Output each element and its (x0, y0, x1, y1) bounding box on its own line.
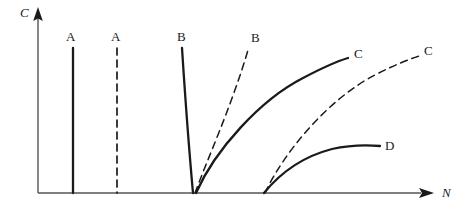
curve-label-c-solid: C (354, 47, 363, 60)
curve-b-dashed (195, 50, 248, 193)
curve-label-c-dashed: C (424, 44, 433, 57)
curves-group (73, 48, 419, 193)
axes-group (33, 7, 434, 198)
y-axis-label: C (20, 6, 29, 19)
curve-label-a-dashed: A (111, 30, 120, 43)
curve-label-b-dashed: B (251, 31, 260, 44)
curve-label-a-solid: A (66, 30, 75, 43)
curve-label-d-solid: D (385, 139, 394, 152)
curve-c-solid (196, 58, 348, 193)
curve-d-solid (264, 145, 380, 193)
right-arrow-icon (419, 188, 434, 198)
curve-c-dashed (265, 56, 419, 193)
figure-root: C N A A B B C C D (0, 0, 465, 217)
curve-b-solid (182, 48, 193, 193)
x-axis-label: N (442, 186, 451, 199)
curve-label-b-solid: B (177, 30, 186, 43)
